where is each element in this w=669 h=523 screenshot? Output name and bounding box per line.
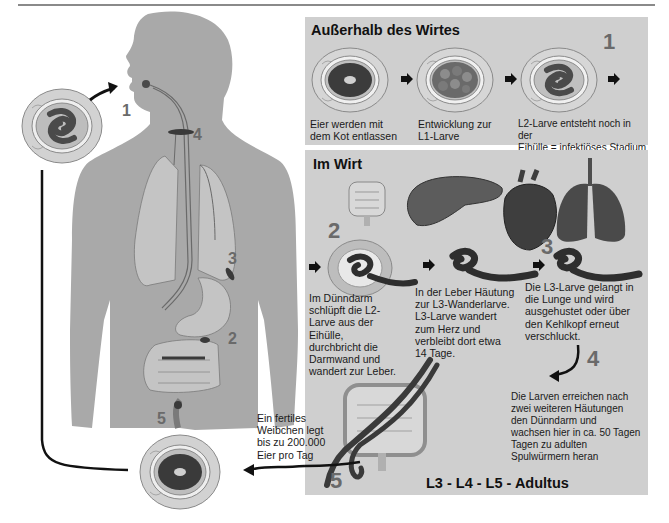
step-number-5: 5 — [330, 468, 342, 494]
step-5-text: Ein fertiles Weibchen legt bis zu 200.00… — [257, 412, 325, 461]
caption-stage-2: Entwicklung zur L1-Larve — [418, 118, 492, 142]
step-number-4: 4 — [587, 346, 599, 372]
infective-egg-icon — [22, 89, 102, 163]
step-number-2: 2 — [328, 218, 340, 244]
egg-larvated-icon — [521, 48, 597, 112]
l3-larva-icon — [453, 251, 535, 278]
body-number-5: 5 — [157, 410, 166, 427]
inside-host-panel: Im Wirt — [305, 150, 648, 495]
step-liver-text: In der Leber Häutung zur L3-Wanderlarve.… — [415, 286, 514, 359]
arrow-right-icon — [505, 73, 517, 85]
outside-host-panel: Außerhalb des Wirtes 1 — [305, 17, 648, 145]
body-number-2: 2 — [228, 330, 237, 347]
lungs-icon — [557, 158, 625, 242]
hatching-egg-icon — [328, 240, 415, 296]
liver-icon — [407, 177, 502, 226]
body-number-4: 4 — [193, 126, 202, 143]
step-4-text: Die Larven erreichen nach zwei weiteren … — [511, 391, 640, 463]
small-intestine — [144, 340, 220, 393]
body-number-1: 1 — [122, 102, 131, 119]
egg-stages — [305, 45, 648, 115]
step-number-3: 3 — [541, 234, 553, 260]
step-2-text: Im Dünndarm schlüpft die L2- Larve aus d… — [309, 292, 396, 377]
stages-label: L3 - L4 - L5 - Adultus — [426, 475, 569, 491]
arrow-right-icon — [608, 73, 620, 85]
arrow-right-icon — [401, 73, 413, 85]
caption-stage-3: L2-Larve entsteht noch in der Eihülle = … — [518, 118, 648, 154]
step-3-text: Die L3-Larve gelangt in die Lunge und wi… — [525, 281, 634, 342]
body-number-3: 3 — [228, 250, 237, 267]
caption-stage-1: Eier werden mit dem Kot entlassen — [310, 118, 397, 142]
intestine-icon — [349, 182, 385, 226]
excreted-egg-icon — [140, 435, 220, 509]
arrow-right-icon — [423, 259, 435, 271]
egg-dividing-icon — [417, 48, 493, 112]
egg-unembryonated-icon — [312, 48, 388, 112]
arrow-right-icon — [533, 259, 545, 271]
panel-title-outside: Außerhalb des Wirtes — [311, 22, 460, 38]
l3-larva-lung-icon — [557, 251, 639, 278]
arrow-right-icon — [309, 261, 321, 273]
